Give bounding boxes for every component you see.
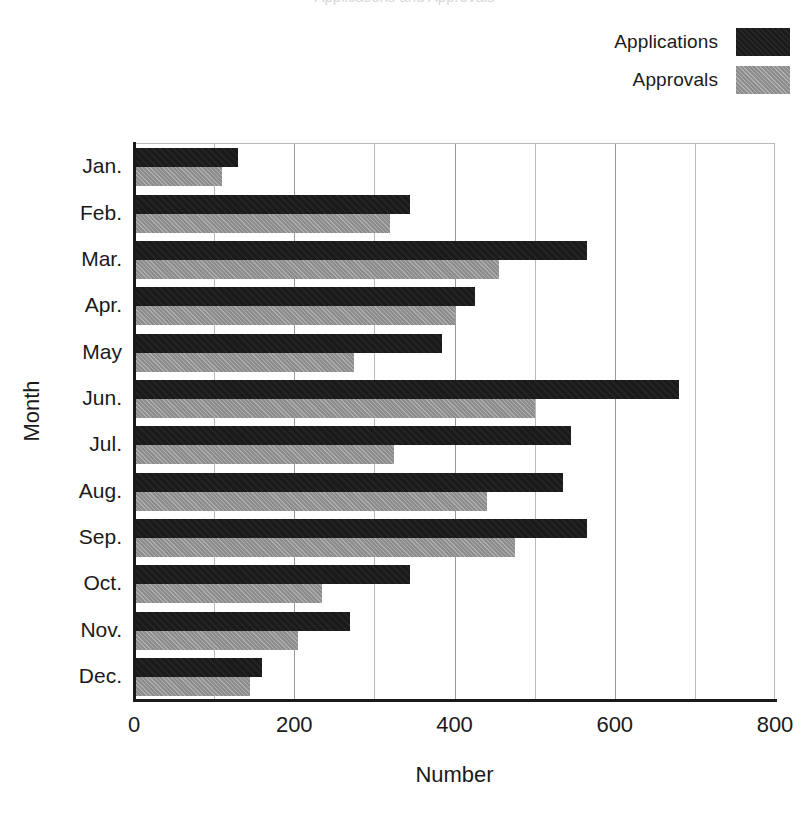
bar-approvals-dec [134,677,250,696]
bar-approvals-mar [134,260,499,279]
bar-group-jul [134,426,774,464]
x-axis-line [133,699,777,702]
legend-item-approvals: Approvals [633,66,790,94]
chart-legend: Applications Approvals [0,28,790,94]
bar-approvals-aug [134,492,487,511]
bar-applications-may [134,334,442,353]
bar-group-feb [134,195,774,233]
bar-group-apr [134,287,774,325]
bar-group-dec [134,658,774,696]
bar-applications-jun [134,380,679,399]
x-tick-400: 400 [436,712,473,738]
bar-approvals-may [134,353,354,372]
y-tick-jan: Jan. [0,154,122,178]
y-tick-nov: Nov. [0,618,122,642]
y-tick-apr: Apr. [0,293,122,317]
bars-layer [134,144,774,699]
bar-applications-sep [134,519,587,538]
bar-approvals-jun [134,399,535,418]
bar-applications-jan [134,148,238,167]
legend-swatch-approvals-icon [736,66,790,94]
y-tick-feb: Feb. [0,201,122,225]
clipped-title-text: Applications and Approvals [0,0,809,5]
bar-applications-aug [134,473,563,492]
x-tick-600: 600 [596,712,633,738]
x-axis-tick-labels: 0200400600800 [134,712,775,746]
bar-applications-mar [134,241,587,260]
legend-item-applications: Applications [614,28,790,56]
bar-approvals-sep [134,538,515,557]
bar-applications-feb [134,195,410,214]
bar-group-jun [134,380,774,418]
bar-approvals-apr [134,306,455,325]
y-axis-line [133,142,136,702]
bar-applications-oct [134,565,410,584]
x-tick-200: 200 [276,712,313,738]
y-tick-dec: Dec. [0,664,122,688]
bar-approvals-jan [134,167,222,186]
y-tick-mar: Mar. [0,247,122,271]
x-tick-800: 800 [757,712,794,738]
bar-group-may [134,334,774,372]
x-axis-title: Number [134,762,775,788]
y-axis-title: Month [19,351,45,471]
clipped-title-strip: Applications and Approvals [0,0,809,10]
bar-applications-apr [134,287,475,306]
bar-group-oct [134,565,774,603]
legend-swatch-applications-icon [736,28,790,56]
bar-group-nov [134,612,774,650]
bar-applications-dec [134,658,262,677]
bar-approvals-nov [134,631,298,650]
bar-applications-jul [134,426,571,445]
bar-group-mar [134,241,774,279]
bar-applications-nov [134,612,350,631]
y-tick-oct: Oct. [0,571,122,595]
bar-approvals-jul [134,445,394,464]
bar-approvals-feb [134,214,390,233]
bar-approvals-oct [134,584,322,603]
legend-label-applications: Applications [614,31,718,53]
x-tick-0: 0 [128,712,140,738]
bar-group-sep [134,519,774,557]
y-tick-sep: Sep. [0,525,122,549]
plot-area [134,143,775,699]
legend-label-approvals: Approvals [633,69,718,91]
y-tick-aug: Aug. [0,479,122,503]
bar-group-aug [134,473,774,511]
bar-group-jan [134,148,774,186]
